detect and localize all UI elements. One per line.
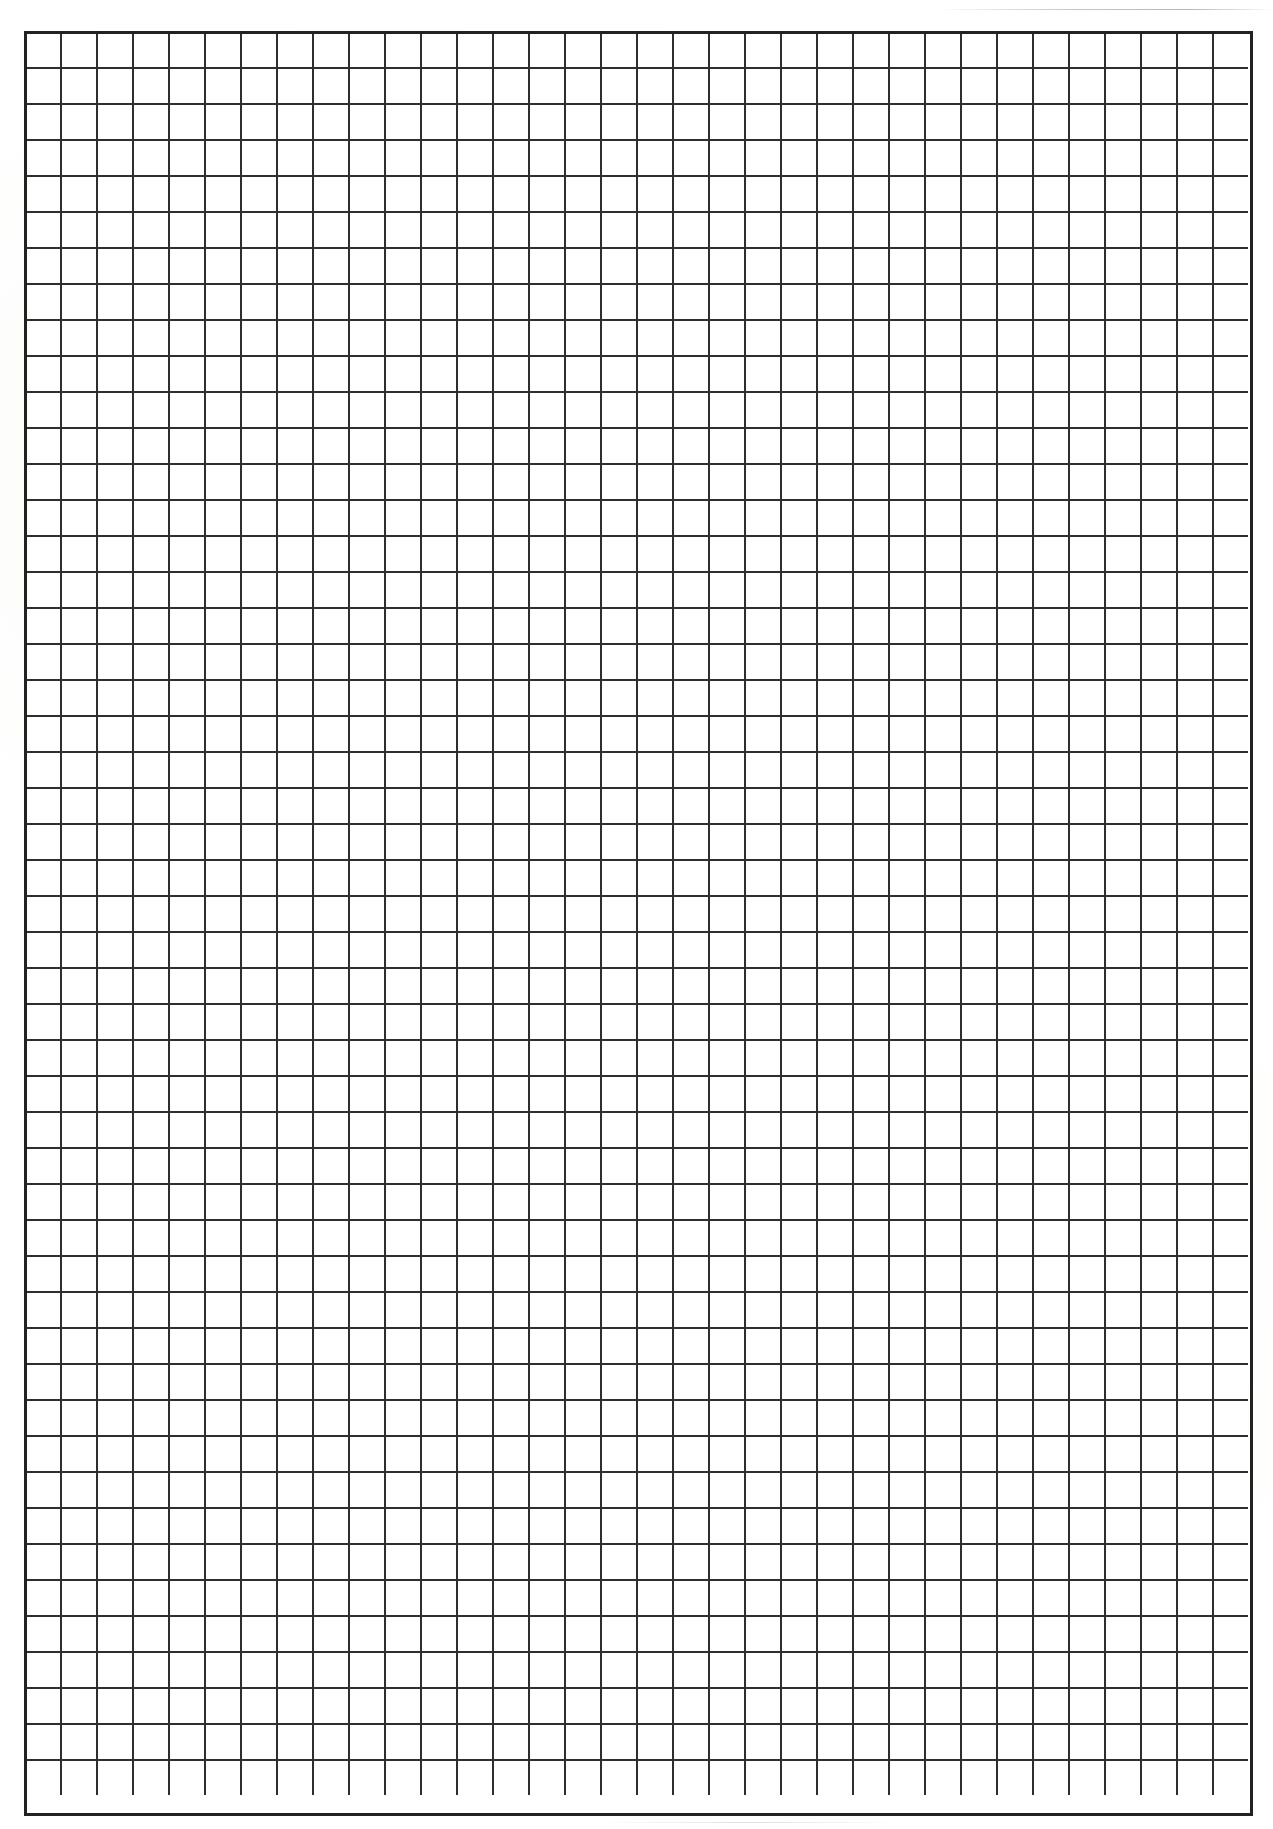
grid-paper-sheet (24, 31, 1253, 1816)
scanned-page (0, 0, 1273, 1829)
scan-artifact-bottom-streak (600, 1822, 900, 1823)
scan-artifact-top-streak (936, 9, 1273, 10)
